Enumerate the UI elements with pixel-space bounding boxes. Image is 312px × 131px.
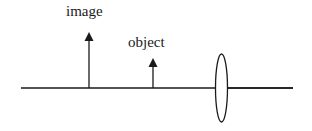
lens <box>216 54 228 122</box>
image-label: image <box>66 4 103 19</box>
object-arrowhead-icon <box>149 58 158 67</box>
diagram-canvas <box>0 0 312 131</box>
object-label: object <box>128 35 165 50</box>
image-arrow <box>85 32 94 88</box>
optics-diagram: image object <box>0 0 312 131</box>
object-arrow <box>149 58 158 88</box>
image-arrowhead-icon <box>85 32 94 41</box>
